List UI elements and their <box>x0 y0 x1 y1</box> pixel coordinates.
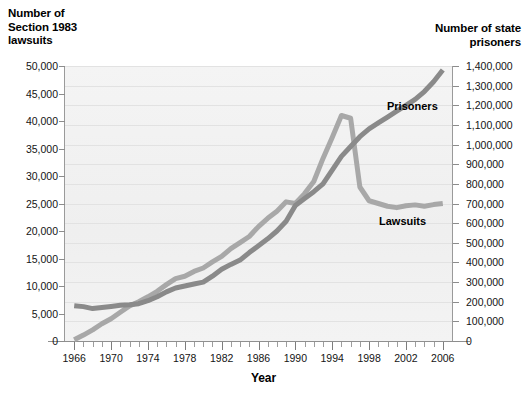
right-axis-tick-mark <box>453 302 459 303</box>
x-axis-tick-minor <box>166 342 167 347</box>
right-axis-tick-label: 800,000 <box>466 178 504 190</box>
right-axis-tick-label: 600,000 <box>466 217 504 229</box>
x-axis-tick-minor <box>157 342 158 347</box>
left-axis-line <box>64 66 65 342</box>
x-axis-tick-label: 1986 <box>247 352 270 364</box>
x-axis-tick-minor <box>130 342 131 347</box>
right-axis-tick-mark <box>453 105 459 106</box>
right-axis-tick-mark <box>453 223 459 224</box>
x-axis-tick-minor <box>360 342 361 347</box>
x-axis-tick-minor <box>176 342 177 347</box>
right-axis-tick-label: 1,300,000 <box>466 80 513 92</box>
x-axis-tick-major <box>222 342 223 350</box>
right-axis-tick-mark <box>453 184 459 185</box>
right-axis-tick-mark <box>453 86 459 87</box>
x-axis-tick-label: 1974 <box>136 352 159 364</box>
x-axis-tick-minor <box>305 342 306 347</box>
right-axis-title-line-1: prisoners <box>331 36 521 50</box>
x-axis-tick-label: 2006 <box>431 352 454 364</box>
x-axis-tick-minor <box>277 342 278 347</box>
series-label-prisoners: Prisoners <box>387 100 438 112</box>
x-axis-tick-minor <box>249 342 250 347</box>
x-axis-tick-minor <box>83 342 84 347</box>
x-axis-tick-minor <box>240 342 241 347</box>
x-axis-tick-minor <box>415 342 416 347</box>
left-axis-title: Number ofSection 1983lawsuits <box>8 7 158 48</box>
x-axis-tick-minor <box>434 342 435 347</box>
right-axis-tick-mark <box>453 282 459 283</box>
left-axis-title-line-2: lawsuits <box>8 34 158 48</box>
x-axis-tick-minor <box>203 342 204 347</box>
right-axis-tick-label: 300,000 <box>466 276 504 288</box>
x-axis-line <box>48 341 470 342</box>
x-axis-title: Year <box>0 372 527 386</box>
x-axis-tick-label: 1966 <box>63 352 86 364</box>
right-axis-tick-label: 100,000 <box>466 315 504 327</box>
left-axis-tick-label: 20,000 <box>0 225 58 237</box>
x-axis-tick-label: 1994 <box>321 352 344 364</box>
x-axis-tick-minor <box>378 342 379 347</box>
x-axis-tick-label: 1990 <box>284 352 307 364</box>
right-axis-tick-mark <box>453 243 459 244</box>
right-axis-title: Number of stateprisoners <box>331 22 521 49</box>
left-axis-tick-label: 45,000 <box>0 88 58 100</box>
x-axis-tick-minor <box>341 342 342 347</box>
x-axis-tick-minor <box>397 342 398 347</box>
series-label-lawsuits: Lawsuits <box>379 215 426 227</box>
x-axis-tick-major <box>148 342 149 350</box>
x-axis-tick-minor <box>231 342 232 347</box>
x-axis-tick-major <box>295 342 296 350</box>
right-axis-tick-mark <box>453 164 459 165</box>
right-axis-title-line-0: Number of state <box>331 22 521 36</box>
x-axis-tick-label: 1970 <box>99 352 122 364</box>
right-axis-tick-mark <box>453 204 459 205</box>
x-axis-tick-label: 1998 <box>357 352 380 364</box>
left-axis-tick-label: 5,000 <box>0 308 58 320</box>
x-axis-tick-minor <box>102 342 103 347</box>
right-axis-tick-mark <box>453 262 459 263</box>
left-axis-tick-label: 10,000 <box>0 280 58 292</box>
right-axis-tick-mark <box>453 321 459 322</box>
x-axis-tick-minor <box>323 342 324 347</box>
right-axis-tick-label: 900,000 <box>466 158 504 170</box>
x-axis-tick-label: 1982 <box>210 352 233 364</box>
left-axis-tick-label: 40,000 <box>0 115 58 127</box>
right-axis-tick-label: 1,400,000 <box>466 60 513 72</box>
x-axis-tick-minor <box>139 342 140 347</box>
left-axis-tick-label: 15,000 <box>0 253 58 265</box>
x-axis-tick-major <box>74 342 75 350</box>
right-axis-tick-mark <box>453 125 459 126</box>
left-axis-title-line-0: Number of <box>8 7 158 21</box>
x-axis-tick-major <box>443 342 444 350</box>
x-axis-tick-major <box>185 342 186 350</box>
left-axis-tick-label: 30,000 <box>0 170 58 182</box>
x-axis-tick-major <box>406 342 407 350</box>
left-axis-tick-label: 35,000 <box>0 143 58 155</box>
left-axis-tick-label: 50,000 <box>0 60 58 72</box>
x-axis-tick-minor <box>212 342 213 347</box>
right-axis-tick-label: 1,100,000 <box>466 119 513 131</box>
right-axis-tick-label: 1,000,000 <box>466 139 513 151</box>
left-axis-title-line-1: Section 1983 <box>8 21 158 35</box>
right-axis-tick-label: 700,000 <box>466 198 504 210</box>
right-axis-tick-mark <box>453 66 459 67</box>
x-axis-tick-minor <box>120 342 121 347</box>
x-axis-tick-minor <box>314 342 315 347</box>
x-axis-tick-minor <box>194 342 195 347</box>
x-axis-tick-major <box>369 342 370 350</box>
x-axis-tick-minor <box>286 342 287 347</box>
x-axis-tick-minor <box>351 342 352 347</box>
right-axis-line <box>452 66 453 342</box>
left-axis-tick-label: 25,000 <box>0 198 58 210</box>
x-axis-tick-label: 1978 <box>173 352 196 364</box>
x-axis-tick-minor <box>268 342 269 347</box>
x-axis-tick-minor <box>424 342 425 347</box>
chart-container: 05,00010,00015,00020,00025,00030,00035,0… <box>0 0 527 398</box>
x-axis-tick-label: 2002 <box>394 352 417 364</box>
right-axis-tick-label: 400,000 <box>466 256 504 268</box>
x-axis-tick-major <box>332 342 333 350</box>
x-axis-tick-minor <box>93 342 94 347</box>
x-axis-tick-major <box>111 342 112 350</box>
right-axis-tick-mark <box>453 145 459 146</box>
right-axis-tick-label: 500,000 <box>466 237 504 249</box>
